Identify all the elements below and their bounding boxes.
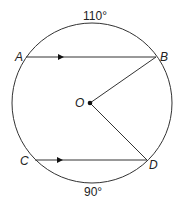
- point-label-c: C: [20, 154, 29, 168]
- center-dot: [88, 101, 93, 106]
- circle-diagram: 110° 90° A B O C D: [0, 0, 180, 218]
- radius-od: [90, 103, 147, 160]
- point-label-a: A: [14, 50, 23, 64]
- arc-label-top: 110°: [83, 9, 107, 23]
- point-label-b: B: [160, 50, 168, 64]
- point-label-d: D: [149, 158, 158, 172]
- parallel-arrow-cd-icon: [57, 157, 63, 163]
- radius-ob: [90, 57, 156, 103]
- parallel-arrow-ab-icon: [58, 54, 64, 60]
- point-label-o: O: [75, 96, 84, 110]
- arc-label-bottom: 90°: [84, 185, 102, 199]
